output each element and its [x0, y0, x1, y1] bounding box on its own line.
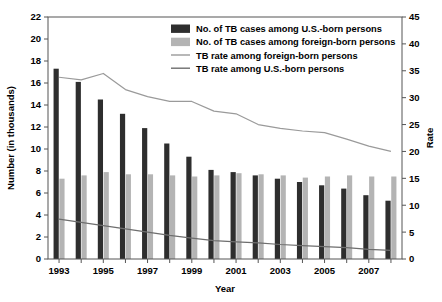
y-tick-label-right: 25 [409, 119, 420, 130]
bar-us-born [142, 128, 147, 259]
bar-us-born [54, 69, 59, 259]
y-tick-label-right: 5 [409, 227, 415, 238]
x-tick-label: 2001 [225, 265, 247, 276]
y-axis-left: 0246810121416182022 [30, 11, 48, 264]
chart-canvas: 0246810121416182022051015202530354045199… [0, 0, 442, 302]
y-tick-label-left: 10 [30, 143, 41, 154]
y-tick-label-left: 22 [30, 11, 41, 22]
x-tick-label: 1997 [137, 265, 158, 276]
legend-label: TB rate among U.S.-born persons [196, 64, 344, 74]
y-tick-label-right: 10 [409, 200, 420, 211]
bar-foreign-born [303, 178, 308, 259]
legend-label: TB rate among foreign-born persons [196, 51, 358, 61]
bar-us-born [297, 182, 302, 259]
bar-foreign-born [369, 177, 374, 260]
y-tick-label-left: 20 [30, 33, 41, 44]
legend-swatch-bar [171, 38, 190, 46]
y-tick-label-right: 0 [409, 253, 414, 264]
y-tick-label-right: 35 [409, 65, 420, 76]
bar-us-born [186, 157, 191, 259]
bar-us-born [253, 175, 258, 259]
bar-us-born [120, 114, 125, 259]
x-tick-label: 1995 [93, 265, 115, 276]
y-tick-label-left: 4 [36, 209, 42, 220]
y-axis-title-right: Rate [424, 128, 435, 149]
y-tick-label-left: 12 [30, 121, 41, 132]
y-tick-label-right: 15 [409, 173, 420, 184]
x-tick-label: 2007 [358, 265, 379, 276]
x-tick-label: 2005 [314, 265, 336, 276]
bar-foreign-born [236, 173, 241, 259]
x-tick-label: 1999 [181, 265, 202, 276]
bar-foreign-born [81, 175, 86, 259]
bar-foreign-born [148, 174, 153, 259]
legend-label: No. of TB cases among foreign-born perso… [196, 37, 395, 47]
bar-us-born [98, 100, 103, 260]
x-axis: 19931995199719992001200320052007 [48, 259, 390, 276]
y-tick-label-right: 20 [409, 146, 420, 157]
x-axis-title: Year [215, 283, 235, 294]
bar-foreign-born [170, 175, 175, 259]
x-tick-label: 2003 [270, 265, 291, 276]
y-axis-right: 051015202530354045 [402, 11, 420, 264]
bar-foreign-born [214, 175, 219, 259]
bar-foreign-born [104, 172, 109, 259]
bar-us-born [231, 172, 236, 259]
bar-foreign-born [347, 175, 352, 259]
bar-foreign-born [258, 174, 263, 259]
y-tick-label-right: 30 [409, 92, 420, 103]
y-tick-label-left: 2 [36, 231, 41, 242]
tb-cases-and-rates-chart: 0246810121416182022051015202530354045199… [0, 0, 442, 302]
bar-us-born [275, 179, 280, 259]
y-tick-label-left: 16 [30, 77, 41, 88]
y-axis-title-left: Number (in thousands) [5, 86, 16, 190]
y-tick-label-left: 8 [36, 165, 41, 176]
y-tick-label-right: 40 [409, 38, 420, 49]
legend-label: No. of TB cases among U.S.-born persons [196, 24, 382, 34]
y-tick-label-left: 0 [36, 253, 41, 264]
bar-foreign-born [391, 177, 396, 260]
bar-us-born [319, 185, 324, 259]
bar-foreign-born [281, 175, 286, 259]
y-tick-label-left: 6 [36, 187, 41, 198]
y-tick-label-right: 45 [409, 11, 420, 22]
bar-us-born [341, 189, 346, 259]
bar-foreign-born [126, 174, 131, 259]
bar-us-born [164, 144, 169, 260]
y-tick-label-left: 14 [30, 99, 41, 110]
bar-us-born [208, 170, 213, 259]
legend-swatch-bar [171, 25, 190, 33]
bar-us-born [76, 82, 81, 259]
x-tick-label: 1993 [48, 265, 69, 276]
y-tick-label-left: 18 [30, 55, 41, 66]
bar-foreign-born [192, 177, 197, 260]
